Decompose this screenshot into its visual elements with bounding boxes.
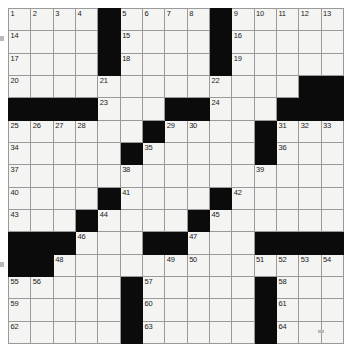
crossword-cell[interactable]: 13 [321,9,343,31]
crossword-cell[interactable]: 15 [120,31,142,53]
crossword-cell[interactable]: 23 [98,98,120,120]
crossword-cell[interactable]: 41 [120,187,142,209]
crossword-cell[interactable]: 42 [232,187,254,209]
crossword-cell[interactable]: 52 [276,254,298,276]
crossword-cell[interactable] [321,209,343,231]
crossword-cell[interactable] [75,187,97,209]
crossword-cell[interactable] [75,254,97,276]
crossword-cell[interactable] [31,142,53,164]
crossword-cell[interactable] [187,299,209,321]
crossword-cell[interactable] [232,142,254,164]
crossword-cell[interactable] [299,187,321,209]
crossword-cell[interactable]: 8 [187,9,209,31]
crossword-cell[interactable] [299,165,321,187]
crossword-cell[interactable] [276,165,298,187]
crossword-cell[interactable]: 4 [75,9,97,31]
crossword-cell[interactable]: 14 [9,31,31,53]
crossword-cell[interactable] [120,209,142,231]
crossword-cell[interactable]: 39 [254,165,276,187]
crossword-cell[interactable] [209,120,231,142]
crossword-cell[interactable] [232,299,254,321]
crossword-cell[interactable] [165,75,187,97]
crossword-cell[interactable]: 21 [98,75,120,97]
crossword-cell[interactable] [53,75,75,97]
crossword-cell[interactable] [142,53,164,75]
crossword-cell[interactable] [321,187,343,209]
crossword-cell[interactable] [142,165,164,187]
crossword-cell[interactable] [142,98,164,120]
crossword-cell[interactable]: 18 [120,53,142,75]
crossword-cell[interactable] [254,53,276,75]
crossword-cell[interactable] [276,53,298,75]
crossword-cell[interactable]: 59 [9,299,31,321]
crossword-cell[interactable] [276,187,298,209]
crossword-cell[interactable] [232,75,254,97]
crossword-cell[interactable] [98,142,120,164]
crossword-cell[interactable]: 24 [209,98,231,120]
crossword-cell[interactable]: 7 [165,9,187,31]
crossword-cell[interactable] [165,31,187,53]
crossword-cell[interactable] [142,254,164,276]
crossword-cell[interactable] [98,232,120,254]
crossword-cell[interactable]: 43 [9,209,31,231]
crossword-cell[interactable] [142,31,164,53]
crossword-cell[interactable] [209,321,231,343]
crossword-cell[interactable]: 16 [232,31,254,53]
crossword-cell[interactable] [31,31,53,53]
crossword-cell[interactable] [232,321,254,343]
crossword-cell[interactable] [53,299,75,321]
crossword-cell[interactable] [75,321,97,343]
crossword-cell[interactable]: 25 [9,120,31,142]
crossword-cell[interactable] [209,142,231,164]
crossword-cell[interactable]: 20 [9,75,31,97]
crossword-cell[interactable] [142,75,164,97]
crossword-cell[interactable] [165,53,187,75]
crossword-cell[interactable]: 55 [9,276,31,298]
crossword-cell[interactable] [53,209,75,231]
crossword-cell[interactable] [75,31,97,53]
crossword-cell[interactable]: 49 [165,254,187,276]
crossword-cell[interactable] [187,165,209,187]
crossword-cell[interactable] [98,254,120,276]
crossword-cell[interactable]: 61 [276,299,298,321]
crossword-cell[interactable]: 5 [120,9,142,31]
crossword-cell[interactable] [276,209,298,231]
crossword-cell[interactable] [254,75,276,97]
crossword-cell[interactable] [98,120,120,142]
crossword-cell[interactable] [120,120,142,142]
crossword-cell[interactable] [187,142,209,164]
crossword-cell[interactable] [187,321,209,343]
crossword-cell[interactable] [75,142,97,164]
crossword-cell[interactable] [31,53,53,75]
crossword-cell[interactable] [209,299,231,321]
crossword-cell[interactable] [75,299,97,321]
crossword-cell[interactable] [75,165,97,187]
crossword-cell[interactable] [299,299,321,321]
crossword-cell[interactable]: 29 [165,120,187,142]
crossword-cell[interactable] [299,142,321,164]
crossword-cell[interactable] [165,299,187,321]
crossword-cell[interactable]: 56 [31,276,53,298]
crossword-cell[interactable]: 64 [276,321,298,343]
crossword-cell[interactable]: 35 [142,142,164,164]
crossword-cell[interactable]: 11 [276,9,298,31]
crossword-cell[interactable] [254,31,276,53]
crossword-cell[interactable] [232,276,254,298]
crossword-grid[interactable]: 1234567891011121314151617181920212223242… [8,8,344,344]
crossword-cell[interactable] [53,276,75,298]
crossword-cell[interactable]: 57 [142,276,164,298]
crossword-cell[interactable] [254,98,276,120]
crossword-cell[interactable]: 37 [9,165,31,187]
crossword-cell[interactable]: 30 [187,120,209,142]
crossword-cell[interactable]: 28 [75,120,97,142]
crossword-cell[interactable] [232,254,254,276]
crossword-cell[interactable] [75,75,97,97]
crossword-cell[interactable] [98,276,120,298]
crossword-cell[interactable]: 27 [53,120,75,142]
crossword-cell[interactable]: 45 [209,209,231,231]
crossword-cell[interactable]: 17 [9,53,31,75]
crossword-cell[interactable] [276,31,298,53]
crossword-cell[interactable]: 38 [120,165,142,187]
crossword-cell[interactable] [31,321,53,343]
crossword-cell[interactable] [321,53,343,75]
